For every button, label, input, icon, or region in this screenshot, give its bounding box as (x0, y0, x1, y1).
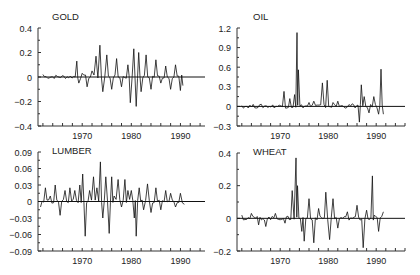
oil-ytick-label: 0 (226, 102, 231, 112)
wheat-xtick-label: 1970 (270, 256, 290, 266)
lumber-ytick-label: −0.03 (9, 214, 32, 224)
gold-xtick-label: 1970 (72, 131, 92, 141)
lumber-ytick-label: 0.03 (14, 181, 32, 191)
oil-ytick-label: 0.9 (218, 43, 231, 53)
gold-ytick-label: 0 (27, 73, 32, 83)
lumber-series-line (41, 162, 185, 236)
oil-series-line (242, 33, 384, 123)
lumber-ytick-label: 0.06 (14, 164, 32, 174)
lumber-title: LUMBER (52, 145, 92, 156)
gold-panel: −0.4−0.200.20.4197019801990GOLD (14, 11, 205, 141)
oil-ytick-label: 1.2 (218, 24, 231, 34)
oil-ytick-label: 0.3 (218, 82, 231, 92)
wheat-title: WHEAT (253, 146, 287, 157)
oil-xtick-label: 1970 (270, 131, 290, 141)
gold-ytick-label: −0.4 (14, 122, 32, 132)
oil-panel: −0.300.30.60.91.2197019801990OIL (213, 11, 405, 141)
wheat-xtick-label: 1990 (366, 256, 386, 266)
lumber-xtick-label: 1970 (72, 256, 92, 266)
gold-ytick-label: −0.2 (14, 97, 32, 107)
figure: −0.4−0.200.20.4197019801990GOLD −0.300.3… (0, 0, 420, 275)
wheat-ytick-label: 0 (226, 214, 231, 224)
gold-xtick-label: 1990 (170, 131, 190, 141)
gold-series-line (43, 45, 183, 106)
wheat-ytick-label: −0.2 (213, 247, 231, 257)
gold-ytick-label: 0.4 (19, 24, 32, 34)
oil-ytick-label: 0.6 (218, 63, 231, 73)
gold-title: GOLD (52, 11, 79, 22)
lumber-ytick-label: −0.06 (9, 230, 32, 240)
lumber-xtick-label: 1990 (170, 256, 190, 266)
wheat-xtick-label: 1980 (318, 256, 338, 266)
wheat-ytick-label: 0.4 (218, 149, 231, 159)
lumber-xtick-label: 1980 (121, 256, 141, 266)
oil-ytick-label: −0.3 (213, 122, 231, 132)
oil-title: OIL (253, 11, 268, 22)
wheat-panel: −0.200.20.4197019801990WHEAT (213, 146, 405, 266)
gold-ytick-label: 0.2 (19, 48, 32, 58)
lumber-ytick-label: 0 (27, 197, 32, 207)
oil-xtick-label: 1990 (366, 131, 386, 141)
lumber-ytick-label: −0.09 (9, 247, 32, 257)
gold-xtick-label: 1980 (121, 131, 141, 141)
lumber-ytick-label: 0.09 (14, 148, 32, 158)
wheat-ytick-label: 0.2 (218, 181, 231, 191)
oil-xtick-label: 1980 (318, 131, 338, 141)
lumber-panel: −0.09−0.06−0.0300.030.060.09197019801990… (9, 145, 205, 266)
wheat-series-line (242, 158, 384, 248)
